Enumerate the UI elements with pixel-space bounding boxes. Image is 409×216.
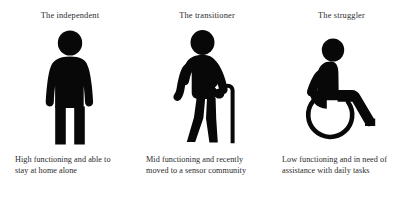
- caption-line: Mid functioning and recently: [146, 154, 268, 165]
- caption-line: Low functioning and in need of: [282, 154, 402, 165]
- persona-heading-transitioner: The transitioner: [179, 11, 235, 21]
- persona-column-independent: The independent High functioning and abl…: [0, 0, 140, 216]
- caption-line: assistance with daily tasks: [282, 165, 402, 176]
- persona-columns: The independent High functioning and abl…: [0, 0, 409, 216]
- caption-line: High functioning and able to: [15, 154, 127, 165]
- person-with-cane-icon: [169, 30, 245, 146]
- persona-figure: The independent High functioning and abl…: [0, 0, 409, 216]
- persona-caption-struggler: Low functioning and in need of assistanc…: [282, 154, 402, 176]
- persona-column-struggler: The struggler: [274, 0, 409, 216]
- wheelchair-user-icon: [301, 38, 383, 146]
- standing-person-icon: [43, 30, 97, 146]
- caption-line: stay at home alone: [15, 165, 127, 176]
- pictogram-wrap-independent: [0, 26, 140, 146]
- persona-heading-struggler: The struggler: [318, 11, 365, 21]
- pictogram-wrap-struggler: [274, 26, 409, 146]
- persona-heading-independent: The independent: [41, 11, 99, 21]
- persona-caption-independent: High functioning and able to stay at hom…: [15, 154, 127, 176]
- persona-column-transitioner: The transitioner: [140, 0, 274, 216]
- pictogram-wrap-transitioner: [140, 26, 274, 146]
- persona-caption-transitioner: Mid functioning and recently moved to a …: [146, 154, 268, 176]
- caption-line: moved to a sensor community: [146, 165, 268, 176]
